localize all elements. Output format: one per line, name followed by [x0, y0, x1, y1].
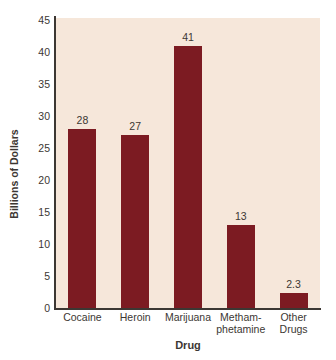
- bar: [280, 293, 308, 308]
- y-tick-label: 45: [18, 14, 50, 26]
- x-category-label: OtherDrugs: [263, 312, 325, 335]
- bar: [227, 225, 255, 308]
- x-axis-line: [54, 308, 321, 310]
- y-tick-label: 25: [18, 142, 50, 154]
- bar: [174, 46, 202, 308]
- bar-value-label: 28: [60, 114, 104, 126]
- y-tick-label: 5: [18, 270, 50, 282]
- y-tick-label: 35: [18, 78, 50, 90]
- y-tick-label: 15: [18, 206, 50, 218]
- bar: [68, 129, 96, 308]
- bar: [121, 135, 149, 308]
- bar-value-label: 41: [166, 31, 210, 43]
- y-tick-label: 30: [18, 110, 50, 122]
- y-axis-line: [54, 16, 56, 310]
- y-tick-label: 20: [18, 174, 50, 186]
- drug-spending-bar-chart: Billions of Dollars Drug 051015202530354…: [0, 0, 336, 360]
- y-tick-label: 0: [18, 302, 50, 314]
- x-axis-title: Drug: [56, 339, 320, 351]
- y-tick-label: 10: [18, 238, 50, 250]
- x-category-label-line: Other: [263, 312, 325, 324]
- bar-value-label: 2.3: [272, 278, 316, 290]
- bar-value-label: 13: [219, 210, 263, 222]
- x-category-label-line: Drugs: [263, 324, 325, 336]
- bar-value-label: 27: [113, 120, 157, 132]
- y-tick-label: 40: [18, 46, 50, 58]
